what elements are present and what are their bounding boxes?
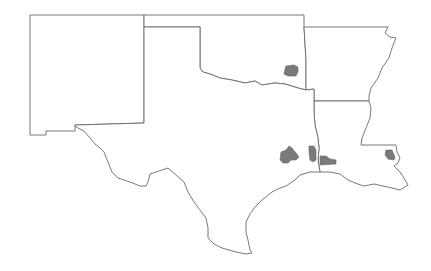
state-louisiana [314, 101, 408, 190]
region-oklahoma-east [284, 65, 298, 76]
regional-map [0, 0, 431, 271]
state-new-mexico [30, 15, 144, 135]
region-texas-east-strip [309, 146, 316, 162]
state-arkansas [304, 27, 396, 101]
states-layer [30, 15, 408, 254]
